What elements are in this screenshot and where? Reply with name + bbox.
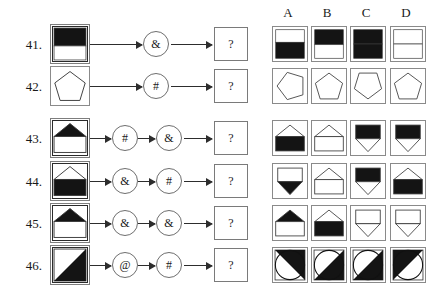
- option-figure-square-all-white-with-divider: [391, 27, 425, 61]
- option-figure-house-white-roof-black-base: [273, 121, 307, 155]
- arrow-connector: [90, 265, 111, 266]
- arrow-connector: [184, 181, 212, 182]
- input-figure-graphic: [51, 204, 89, 242]
- operator-circle-and[interactable]: &: [112, 210, 138, 236]
- operator-circle-at[interactable]: @: [112, 252, 138, 278]
- option-b-row-41[interactable]: [311, 26, 347, 62]
- option-b-row-45[interactable]: [311, 205, 347, 241]
- result-question-box: ?: [214, 164, 248, 198]
- arrow-connector: [184, 223, 212, 224]
- option-b-row-46[interactable]: [311, 247, 347, 283]
- input-figure-house-white-roof-black-base: [50, 161, 90, 201]
- arrow-connector: [184, 265, 212, 266]
- puzzle-sheet: ABCD41.&?42.#?43.#&?44.&#?45.&&?46.@#?: [0, 0, 445, 295]
- option-a-row-41[interactable]: [272, 26, 308, 62]
- input-figure-square-diagonal-black-lower-right: [50, 245, 90, 285]
- input-figure-house-black-roof-white-base: [50, 203, 90, 243]
- figure-graphic: [312, 248, 346, 282]
- option-a-row-43[interactable]: [272, 120, 308, 156]
- option-a-row-42[interactable]: [272, 68, 308, 104]
- option-figure-square-white-top-black-bottom: [273, 27, 307, 61]
- figure-graphic: [391, 27, 425, 61]
- option-figure-house-white-roof-black-base: [312, 206, 346, 240]
- operator-circle-hash[interactable]: #: [112, 125, 138, 151]
- figure-graphic: [51, 25, 89, 63]
- arrow-connector: [171, 86, 212, 87]
- option-c-row-43[interactable]: [350, 120, 386, 156]
- option-c-row-46[interactable]: [350, 247, 386, 283]
- figure-graphic: [273, 206, 307, 240]
- figure-graphic: [312, 27, 346, 61]
- option-c-row-41[interactable]: [350, 26, 386, 62]
- operator-circle-hash[interactable]: #: [156, 252, 182, 278]
- figure-graphic: [273, 164, 307, 198]
- operator-circle-and[interactable]: &: [143, 31, 169, 57]
- arrow-connector: [184, 138, 212, 139]
- option-figure-pentagon-rotated-left: [273, 69, 307, 103]
- input-figure-graphic: [51, 119, 89, 157]
- option-c-row-45[interactable]: [350, 205, 386, 241]
- option-d-row-42[interactable]: [390, 68, 426, 104]
- row-number-46: 46.: [14, 258, 42, 274]
- option-column-header-a: A: [271, 5, 305, 21]
- option-figure-house-inverted-black-point: [273, 164, 307, 198]
- option-figure-circle-diagonal-black-lower-right: [351, 248, 385, 282]
- figure-graphic: [391, 121, 425, 155]
- option-figure-house-black-roof-white-base: [273, 206, 307, 240]
- figure-graphic: [351, 248, 385, 282]
- operator-circle-and[interactable]: &: [112, 168, 138, 194]
- option-figure-pentagon-outline-upright: [391, 69, 425, 103]
- input-figure-square-black-top-white-bottom: [50, 24, 90, 64]
- result-question-box: ?: [214, 206, 248, 240]
- figure-graphic: [51, 162, 89, 200]
- figure-graphic: [312, 206, 346, 240]
- figure-graphic: [391, 164, 425, 198]
- figure-graphic: [391, 69, 425, 103]
- option-figure-house-white-roof-black-base: [391, 164, 425, 198]
- input-figure-graphic: [51, 162, 89, 200]
- result-question-box: ?: [214, 27, 248, 61]
- option-column-header-c: C: [349, 5, 383, 21]
- option-a-row-44[interactable]: [272, 163, 308, 199]
- figure-graphic: [273, 248, 307, 282]
- row-number-43: 43.: [14, 131, 42, 147]
- option-b-row-42[interactable]: [311, 68, 347, 104]
- operator-circle-hash[interactable]: #: [156, 168, 182, 194]
- option-figure-circle-diagonal-black-lower-right: [312, 248, 346, 282]
- option-column-header-b: B: [310, 5, 344, 21]
- figure-graphic: [273, 69, 307, 103]
- operator-circle-and[interactable]: &: [156, 125, 182, 151]
- result-question-box: ?: [214, 69, 248, 103]
- option-figure-house-white-roof-white-base: [312, 164, 346, 198]
- row-number-42: 42.: [14, 79, 42, 95]
- option-a-row-45[interactable]: [272, 205, 308, 241]
- operator-circle-and[interactable]: &: [156, 210, 182, 236]
- option-d-row-43[interactable]: [390, 120, 426, 156]
- option-figure-square-all-black: [351, 27, 385, 61]
- input-figure-pentagon-outline-upright: [50, 66, 90, 106]
- option-d-row-44[interactable]: [390, 163, 426, 199]
- option-figure-house-inverted-black-body-white-point: [391, 121, 425, 155]
- arrow-connector: [90, 86, 142, 87]
- option-d-row-41[interactable]: [390, 26, 426, 62]
- figure-graphic: [351, 121, 385, 155]
- result-question-box: ?: [214, 121, 248, 155]
- input-figure-graphic: [51, 246, 89, 284]
- option-b-row-44[interactable]: [311, 163, 347, 199]
- option-c-row-44[interactable]: [350, 163, 386, 199]
- option-b-row-43[interactable]: [311, 120, 347, 156]
- option-d-row-45[interactable]: [390, 205, 426, 241]
- option-c-row-42[interactable]: [350, 68, 386, 104]
- figure-graphic: [51, 67, 89, 105]
- figure-graphic: [391, 206, 425, 240]
- option-a-row-46[interactable]: [272, 247, 308, 283]
- option-d-row-46[interactable]: [390, 247, 426, 283]
- option-figure-square-black-top-white-bottom: [312, 27, 346, 61]
- operator-circle-hash[interactable]: #: [143, 73, 169, 99]
- arrow-connector: [90, 138, 111, 139]
- arrow-connector: [90, 44, 142, 45]
- figure-graphic: [312, 69, 346, 103]
- option-figure-pentagon-outline-upright: [312, 69, 346, 103]
- arrow-connector: [138, 181, 155, 182]
- row-number-45: 45.: [14, 216, 42, 232]
